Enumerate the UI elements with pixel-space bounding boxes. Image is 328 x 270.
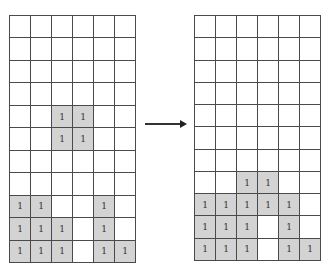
- empty-cell: [300, 61, 321, 83]
- empty-cell: [258, 16, 279, 38]
- empty-cell: [94, 173, 115, 195]
- empty-cell: [237, 16, 258, 38]
- empty-cell: [195, 127, 216, 149]
- filled-cell: 1: [195, 194, 216, 216]
- empty-cell: [258, 105, 279, 127]
- empty-cell: [115, 151, 136, 173]
- filled-cell: 1: [10, 218, 31, 240]
- empty-cell: [10, 128, 31, 150]
- empty-cell: [300, 38, 321, 60]
- filled-cell: 1: [10, 241, 31, 263]
- empty-cell: [195, 150, 216, 172]
- filled-cell: 1: [216, 239, 237, 261]
- empty-cell: [279, 127, 300, 149]
- empty-cell: [216, 61, 237, 83]
- filled-cell: 1: [52, 128, 73, 150]
- empty-cell: [73, 83, 94, 105]
- empty-cell: [237, 61, 258, 83]
- empty-cell: [216, 105, 237, 127]
- empty-cell: [31, 61, 52, 83]
- empty-cell: [73, 173, 94, 195]
- filled-cell: 1: [94, 196, 115, 218]
- empty-cell: [258, 216, 279, 238]
- grid-after: 1111111111111111: [194, 15, 321, 261]
- filled-cell: 1: [195, 216, 216, 238]
- empty-cell: [73, 151, 94, 173]
- empty-cell: [73, 61, 94, 83]
- empty-cell: [73, 16, 94, 38]
- empty-cell: [94, 106, 115, 128]
- empty-cell: [300, 194, 321, 216]
- filled-cell: 1: [31, 196, 52, 218]
- empty-cell: [115, 38, 136, 60]
- grid-before: 1111111111111111: [9, 15, 136, 263]
- empty-cell: [300, 83, 321, 105]
- filled-cell: 1: [237, 172, 258, 194]
- empty-cell: [237, 105, 258, 127]
- empty-cell: [216, 83, 237, 105]
- filled-cell: 1: [94, 218, 115, 240]
- empty-cell: [300, 150, 321, 172]
- empty-cell: [115, 61, 136, 83]
- empty-cell: [31, 38, 52, 60]
- empty-cell: [31, 128, 52, 150]
- filled-cell: 1: [258, 194, 279, 216]
- filled-cell: 1: [279, 194, 300, 216]
- filled-cell: 1: [237, 216, 258, 238]
- empty-cell: [216, 16, 237, 38]
- empty-cell: [258, 38, 279, 60]
- filled-cell: 1: [115, 241, 136, 263]
- filled-cell: 1: [94, 241, 115, 263]
- empty-cell: [10, 106, 31, 128]
- empty-cell: [52, 83, 73, 105]
- filled-cell: 1: [279, 216, 300, 238]
- empty-cell: [115, 128, 136, 150]
- filled-cell: 1: [31, 218, 52, 240]
- filled-cell: 1: [52, 106, 73, 128]
- empty-cell: [195, 172, 216, 194]
- empty-cell: [94, 83, 115, 105]
- empty-cell: [115, 83, 136, 105]
- empty-cell: [31, 83, 52, 105]
- empty-cell: [279, 38, 300, 60]
- empty-cell: [258, 150, 279, 172]
- filled-cell: 1: [258, 172, 279, 194]
- empty-cell: [279, 61, 300, 83]
- empty-cell: [73, 196, 94, 218]
- empty-cell: [237, 127, 258, 149]
- filled-cell: 1: [279, 239, 300, 261]
- filled-cell: 1: [195, 239, 216, 261]
- empty-cell: [216, 150, 237, 172]
- empty-cell: [115, 196, 136, 218]
- empty-cell: [195, 61, 216, 83]
- filled-cell: 1: [52, 241, 73, 263]
- empty-cell: [279, 172, 300, 194]
- empty-cell: [300, 127, 321, 149]
- filled-cell: 1: [73, 128, 94, 150]
- filled-cell: 1: [73, 106, 94, 128]
- empty-cell: [31, 173, 52, 195]
- empty-cell: [94, 128, 115, 150]
- empty-cell: [300, 172, 321, 194]
- empty-cell: [300, 16, 321, 38]
- empty-cell: [115, 16, 136, 38]
- empty-cell: [115, 218, 136, 240]
- empty-cell: [258, 61, 279, 83]
- empty-cell: [94, 151, 115, 173]
- filled-cell: 1: [237, 239, 258, 261]
- filled-cell: 1: [52, 218, 73, 240]
- empty-cell: [52, 61, 73, 83]
- empty-cell: [279, 105, 300, 127]
- empty-cell: [10, 173, 31, 195]
- empty-cell: [10, 16, 31, 38]
- empty-cell: [216, 172, 237, 194]
- empty-cell: [31, 16, 52, 38]
- empty-cell: [195, 16, 216, 38]
- empty-cell: [216, 38, 237, 60]
- empty-cell: [94, 38, 115, 60]
- empty-cell: [52, 173, 73, 195]
- empty-cell: [73, 218, 94, 240]
- empty-cell: [195, 38, 216, 60]
- right-arrow-icon: [145, 123, 183, 125]
- empty-cell: [31, 106, 52, 128]
